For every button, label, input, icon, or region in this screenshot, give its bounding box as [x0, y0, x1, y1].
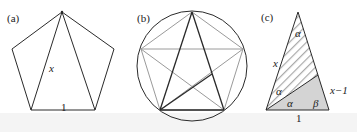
- inscribed-pentagon: [141, 12, 243, 110]
- side-label-x: x: [272, 57, 278, 69]
- panel-a: (a) x 1: [7, 11, 114, 113]
- angle-alpha-left-upper: α: [276, 85, 282, 97]
- panel-b-label: (b): [137, 12, 150, 25]
- base-label-1: 1: [296, 112, 302, 124]
- panel-b: (b): [137, 11, 247, 121]
- pentagon: [12, 12, 114, 110]
- apex-dot: [61, 11, 63, 13]
- side-label-x-minus-1: x−1: [329, 84, 348, 96]
- diagonal-left: [31, 12, 62, 110]
- angle-beta: β: [312, 97, 319, 109]
- golden-triangle-dark: [160, 12, 224, 110]
- panel-a-label: (a): [7, 12, 20, 25]
- diagonal-right: [62, 12, 95, 110]
- circumcircle: [137, 11, 247, 121]
- diagonal-label-x: x: [48, 62, 54, 74]
- side-label-1: 1: [61, 101, 67, 113]
- pentagram-gray: [141, 49, 243, 110]
- panel-c-label: (c): [261, 11, 274, 24]
- angle-alpha-top: α: [295, 27, 301, 39]
- angle-alpha-left-lower: α: [287, 97, 293, 109]
- golden-ratio-diagram: (a) x 1 (b) (c) α x α α β x−1 1: [0, 0, 357, 132]
- panel-c: (c) α x α α β x−1 1: [261, 11, 348, 124]
